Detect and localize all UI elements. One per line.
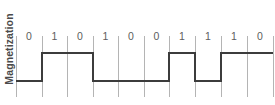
- magnetization-figure: Magnetization 0101001110: [0, 0, 275, 105]
- gridlines-group: [17, 36, 274, 97]
- waveform-svg: [0, 0, 275, 105]
- plot-area: [0, 0, 275, 105]
